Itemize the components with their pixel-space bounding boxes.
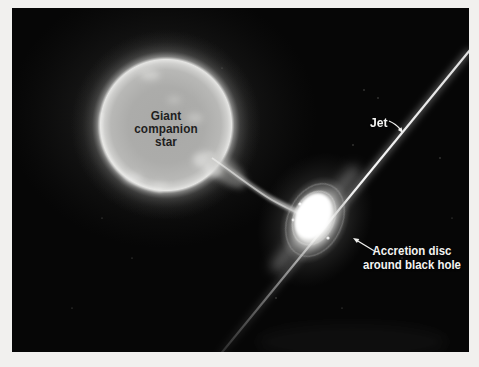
- accretion-disc-label-line2: around black hole: [363, 258, 461, 272]
- companion-star-label-line3: star: [134, 136, 198, 149]
- companion-star-label: Giant companion star: [134, 110, 198, 149]
- jet-label: Jet: [370, 116, 388, 129]
- accretion-disc-label-line1: Accretion disc: [363, 244, 461, 258]
- disc-center-glow: [300, 203, 322, 225]
- space-artwork: [12, 8, 469, 352]
- space-illustration: Giant companion star Jet Accretion disc …: [12, 8, 469, 352]
- page-background: Giant companion star Jet Accretion disc …: [0, 0, 479, 367]
- accretion-disc-label: Accretion disc around black hole: [363, 244, 461, 271]
